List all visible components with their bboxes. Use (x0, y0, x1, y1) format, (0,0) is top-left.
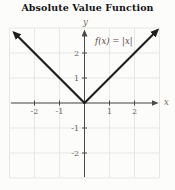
y-tick-label: 1 (74, 74, 79, 83)
y-tick-label: -1 (71, 124, 79, 133)
x-tick-label: 2 (132, 107, 137, 116)
graph-canvas: -2-112-2-112 (0, 0, 175, 190)
function-ray (15, 33, 85, 103)
x-tick-label: -1 (56, 107, 64, 116)
x-axis-label: x (164, 97, 169, 107)
x-tick-label: -2 (31, 107, 39, 116)
figure: Absolute Value Function -2-112-2-112 y x… (0, 0, 175, 190)
function-label: f(x) = |x| (95, 36, 133, 46)
y-axis-label: y (83, 17, 88, 27)
x-tick-label: 1 (107, 107, 112, 116)
y-tick-label: -2 (71, 149, 79, 158)
y-tick-label: 2 (74, 49, 79, 58)
series-layer (15, 31, 158, 104)
